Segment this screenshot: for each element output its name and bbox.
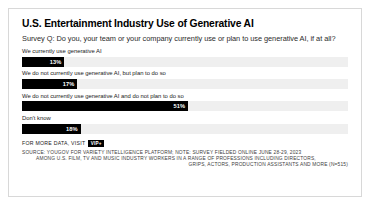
bar-fill: 18%: [22, 124, 81, 134]
bar-row: We do not currently use generative AI an…: [22, 93, 348, 112]
bar-track: 17%: [22, 79, 348, 89]
bar-value-label: 13%: [50, 57, 62, 67]
bar-fill: 17%: [22, 79, 77, 89]
bar-value-label: 17%: [63, 79, 75, 89]
bar-track: 51%: [22, 101, 348, 111]
source-line-3: GRIPS, ACTORS, PRODUCTION ASSISTANTS AND…: [22, 162, 348, 168]
bar-track: 18%: [22, 124, 348, 134]
bar-fill: 51%: [22, 101, 188, 111]
bar-row: We do not currently use generative AI, b…: [22, 70, 348, 89]
source-line-1: SOURCE: YOUGOV FOR VARIETY INTELLIGENCE …: [22, 150, 348, 156]
bar-row: Don't know 18%: [22, 115, 348, 134]
bar-category-label: We currently use generative AI: [22, 48, 348, 55]
vip-plus-badge[interactable]: VIP+: [88, 140, 104, 147]
bar-row: We currently use generative AI 13%: [22, 48, 348, 67]
chart-footer: FOR MORE DATA, VISIT VIP+ SOURCE: YOUGOV…: [22, 140, 348, 169]
more-data-line: FOR MORE DATA, VISIT VIP+: [22, 140, 348, 147]
bar-fill: 13%: [22, 57, 64, 67]
bar-category-label: Don't know: [22, 115, 348, 122]
bar-value-label: 51%: [174, 101, 186, 111]
bar-category-label: We do not currently use generative AI an…: [22, 93, 348, 100]
bar-category-label: We do not currently use generative AI, b…: [22, 70, 348, 77]
bar-chart: We currently use generative AI 13% We do…: [22, 48, 348, 133]
chart-subtitle: Survey Q: Do you, your team or your comp…: [22, 34, 348, 43]
chart-card: U.S. Entertainment Industry Use of Gener…: [8, 8, 362, 197]
bar-track: 13%: [22, 57, 348, 67]
bar-value-label: 18%: [66, 124, 78, 134]
more-data-text: FOR MORE DATA, VISIT: [22, 140, 85, 146]
chart-title: U.S. Entertainment Industry Use of Gener…: [22, 18, 348, 30]
